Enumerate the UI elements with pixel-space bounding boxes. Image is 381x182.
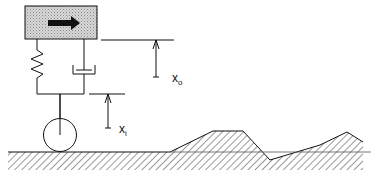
xo-dimension xyxy=(101,40,174,77)
sprung-mass xyxy=(25,6,97,39)
damper xyxy=(73,39,95,94)
suspension-diagram: xo xi xyxy=(0,0,381,182)
spring xyxy=(31,39,43,94)
xo-label: xo xyxy=(172,71,183,87)
xi-label: xi xyxy=(119,122,127,138)
